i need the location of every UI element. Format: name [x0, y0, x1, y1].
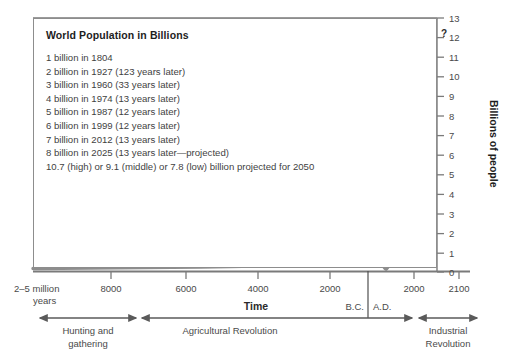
x-axis-title: Time — [244, 300, 268, 312]
y-tick-label: 4 — [449, 189, 454, 200]
x-tick-label-start-1: 2–5 million — [14, 283, 59, 294]
y-tick-3: 3 — [437, 209, 454, 220]
y-tick-2: 2 — [437, 228, 454, 239]
y-tick-label: 9 — [449, 91, 454, 102]
bc-label: B.C. — [346, 301, 364, 312]
figure-canvas: 13 12 11 10 9 8 7 6 5 4 3 2 — [0, 0, 527, 358]
y-tick-7: 7 — [437, 130, 454, 141]
x-tick-label-4000: 4000 — [247, 283, 268, 294]
x-tick-label-2000ad: 2000 — [403, 283, 424, 294]
y-tick-6: 6 — [437, 150, 454, 161]
y-tick-4: 4 — [437, 189, 454, 200]
y-tick-label: 3 — [449, 209, 454, 220]
bc-ad-divider: B.C. A.D. — [346, 271, 392, 318]
y-tick-1: 1 — [437, 248, 454, 259]
era-label-industrial-line2: Revolution — [426, 338, 471, 349]
y-axis-title: Billions of people — [488, 100, 500, 188]
x-tick-label-start-2: years — [33, 295, 56, 306]
y-tick-label: 2 — [449, 228, 454, 239]
info-line: 5 billion in 1987 (12 years later) — [46, 105, 430, 119]
y-tick-label: 1 — [449, 248, 454, 259]
y-tick-label: 6 — [449, 150, 454, 161]
info-box: World Population in Billions 1 billion i… — [33, 18, 437, 268]
era-label-hunting-line1: Hunting and — [62, 325, 113, 336]
era-label-agricultural: Agricultural Revolution — [182, 325, 277, 336]
era-labels: Hunting and gathering Agricultural Revol… — [62, 325, 470, 349]
x-tick-label-6000: 6000 — [175, 283, 196, 294]
info-line: 6 billion in 1999 (12 years later) — [46, 119, 430, 133]
y-tick-label: 13 — [449, 13, 460, 24]
y-tick-13: 13 — [437, 13, 460, 24]
ad-label: A.D. — [373, 301, 391, 312]
info-line: 2 billion in 1927 (123 years later) — [46, 65, 430, 79]
info-box-title: World Population in Billions — [46, 29, 189, 41]
y-tick-label: 8 — [449, 111, 454, 122]
x-tick-label-2000bc: 2000 — [319, 283, 340, 294]
y-tick-label: 12 — [449, 32, 460, 43]
y-tick-5: 5 — [437, 169, 454, 180]
y-tick-9: 9 — [437, 91, 454, 102]
y-tick-10: 10 — [437, 71, 460, 82]
x-axis-ticks: 2–5 million years 8000 6000 4000 2000 20… — [14, 272, 470, 307]
y-tick-label: 7 — [449, 130, 454, 141]
era-label-industrial-line1: Industrial — [429, 325, 468, 336]
info-line: 4 billion in 1974 (13 years later) — [46, 92, 430, 106]
info-box-lines: 1 billion in 1804 2 billion in 1927 (123… — [46, 51, 430, 173]
x-tick-label-2100ad: 2100 — [448, 283, 469, 294]
y-axis-ticks: 13 12 11 10 9 8 7 6 5 4 3 2 — [437, 13, 460, 278]
y-tick-8: 8 — [437, 111, 454, 122]
info-line: 8 billion in 2025 (13 years later—projec… — [46, 146, 430, 160]
y-tick-label: 0 — [449, 267, 454, 278]
y-tick-label: 5 — [449, 169, 454, 180]
x-tick-label-8000: 8000 — [100, 283, 121, 294]
info-line: 3 billion in 1960 (33 years later) — [46, 78, 430, 92]
info-line: 10.7 (high) or 9.1 (middle) or 7.8 (low)… — [46, 160, 430, 174]
y-tick-label: 10 — [449, 71, 460, 82]
question-mark-high: ? — [441, 28, 447, 39]
info-line: 1 billion in 1804 — [46, 51, 430, 65]
info-line: 7 billion in 2012 (13 years later) — [46, 133, 430, 147]
y-tick-label: 11 — [449, 52, 459, 63]
y-tick-11: 11 — [437, 52, 459, 63]
era-label-hunting-line2: gathering — [68, 338, 108, 349]
